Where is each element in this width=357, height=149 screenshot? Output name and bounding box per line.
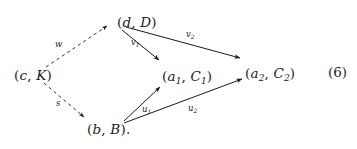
equation-number: (6) [328,64,347,80]
node-b-B: (b, B). [87,123,130,137]
edge-u1-label: u1 [142,105,151,115]
edge-u2 [124,79,242,123]
node-a2-C2: (a2, C2) [245,67,295,83]
edge-s [44,83,84,117]
edge-s-label: s [56,99,60,108]
node-d-D: (d, D) [117,16,157,30]
edge-u2-label: u2 [188,104,197,114]
edge-v2 [126,27,240,58]
edge-w-label: w [55,40,62,49]
edge-v1-label: v1 [131,38,140,48]
edge-v2-label: v2 [186,30,195,40]
node-c-K: (c, K) [14,69,52,83]
node-a1-C1: (a1, C1) [162,70,212,86]
diagram-canvas: (d, D)(c, K)(a1, C1)(a2, C2)(b, B). wsv1… [0,0,357,149]
